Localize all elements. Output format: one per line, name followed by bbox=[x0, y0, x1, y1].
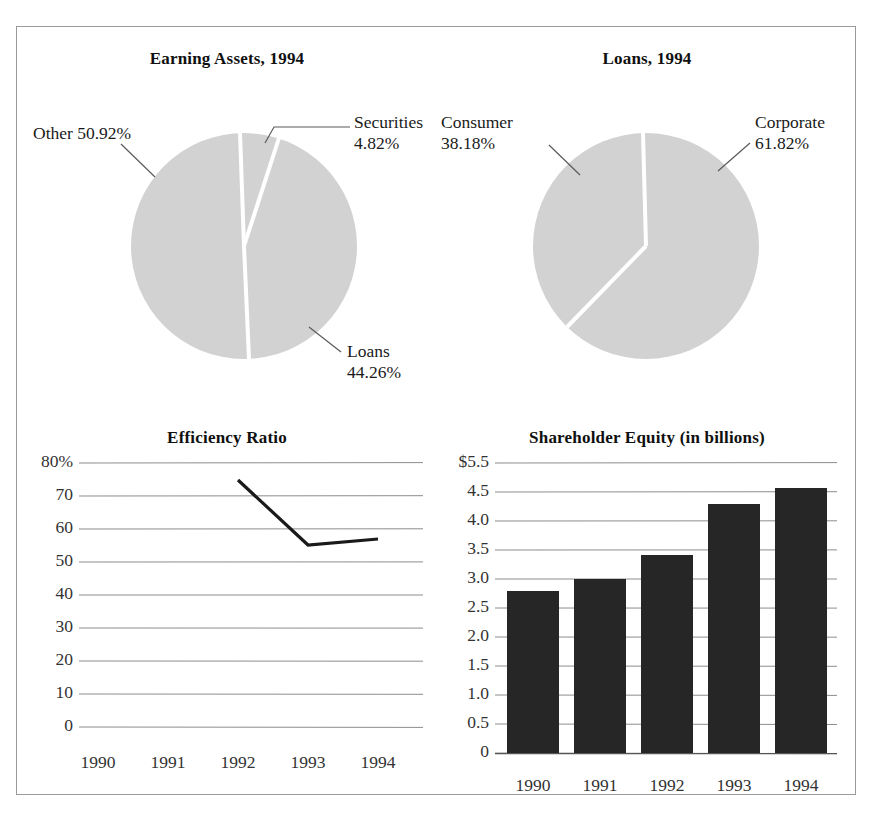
leader-line-loans bbox=[309, 327, 341, 352]
x-tick-label: 1992 bbox=[203, 752, 273, 773]
pie-label-corporate-value: 61.82% bbox=[755, 133, 825, 154]
y-tick-label: 4.5 bbox=[437, 480, 489, 501]
y-tick-label: 50 bbox=[17, 550, 73, 571]
y-tick-label: 10 bbox=[17, 682, 73, 703]
efficiency-data-line bbox=[238, 480, 378, 545]
x-tick-label: 1991 bbox=[565, 775, 635, 796]
bar-1993 bbox=[708, 504, 760, 754]
x-tick-label: 1994 bbox=[766, 775, 836, 796]
pie-label-securities: Securities 4.82% bbox=[354, 112, 423, 155]
y-tick-label: 2.5 bbox=[437, 596, 489, 617]
y-tick-label: 3.5 bbox=[437, 538, 489, 559]
pie-label-securities-value: 4.82% bbox=[354, 133, 423, 154]
pie-label-other: Other 50.92% bbox=[33, 123, 131, 144]
bar-1994 bbox=[775, 488, 827, 754]
y-tick-label: 70 bbox=[17, 484, 73, 505]
x-tick-label: 1991 bbox=[133, 752, 203, 773]
efficiency-ratio-plot bbox=[17, 422, 437, 796]
y-tick-label: 0.5 bbox=[437, 712, 489, 733]
y-tick-label: 0 bbox=[437, 741, 489, 762]
pie-label-securities-name: Securities bbox=[354, 112, 423, 133]
y-tick-label: 80% bbox=[17, 451, 73, 472]
y-tick-label: 60 bbox=[17, 517, 73, 538]
equity-bars bbox=[507, 488, 827, 754]
y-tick-label: 2.0 bbox=[437, 625, 489, 646]
x-tick-label: 1993 bbox=[273, 752, 343, 773]
bar-1990 bbox=[507, 591, 559, 754]
leader-line-corporate bbox=[718, 143, 750, 171]
y-tick-label: 20 bbox=[17, 649, 73, 670]
y-tick-label: $5.5 bbox=[437, 451, 489, 472]
leader-line-other bbox=[121, 144, 155, 177]
chart-efficiency-ratio: Efficiency Ratio 80% 70 60 50 40 30 20 1… bbox=[17, 422, 437, 796]
y-tick-label: 0 bbox=[17, 715, 73, 736]
pie-label-consumer: Consumer 38.18% bbox=[441, 112, 513, 155]
y-tick-label: 4.0 bbox=[437, 509, 489, 530]
pie-label-other-text: Other 50.92% bbox=[33, 123, 131, 143]
bar-1992 bbox=[641, 555, 693, 754]
pie-label-loans-name: Loans bbox=[347, 341, 401, 362]
y-tick-label: 1.0 bbox=[437, 683, 489, 704]
pie-label-corporate: Corporate 61.82% bbox=[755, 112, 825, 155]
x-tick-label: 1993 bbox=[699, 775, 769, 796]
chart-loans: Loans, 1994 Consumer 38.18% Corporate 61… bbox=[437, 27, 857, 422]
y-tick-label: 3.0 bbox=[437, 567, 489, 588]
pie-label-loans-value: 44.26% bbox=[347, 362, 401, 383]
pie-label-consumer-name: Consumer bbox=[441, 112, 513, 133]
chart-earning-assets: Earning Assets, 1994 Other 50.92% Securi… bbox=[17, 27, 437, 422]
x-tick-label: 1994 bbox=[343, 752, 413, 773]
y-tick-label: 1.5 bbox=[437, 654, 489, 675]
pie-label-consumer-value: 38.18% bbox=[441, 133, 513, 154]
efficiency-gridlines bbox=[79, 463, 423, 728]
x-tick-label: 1992 bbox=[632, 775, 702, 796]
y-tick-label: 30 bbox=[17, 616, 73, 637]
x-tick-label: 1990 bbox=[63, 752, 133, 773]
figure-frame: Earning Assets, 1994 Other 50.92% Securi… bbox=[16, 26, 856, 795]
y-tick-label: 40 bbox=[17, 583, 73, 604]
shareholder-equity-plot bbox=[437, 422, 857, 796]
pie-label-corporate-name: Corporate bbox=[755, 112, 825, 133]
loans-pie-svg bbox=[437, 27, 857, 422]
pie-label-loans: Loans 44.26% bbox=[347, 341, 401, 384]
x-tick-label: 1990 bbox=[498, 775, 568, 796]
bar-1991 bbox=[574, 579, 626, 754]
chart-shareholder-equity: Shareholder Equity (in billions) bbox=[437, 422, 857, 796]
